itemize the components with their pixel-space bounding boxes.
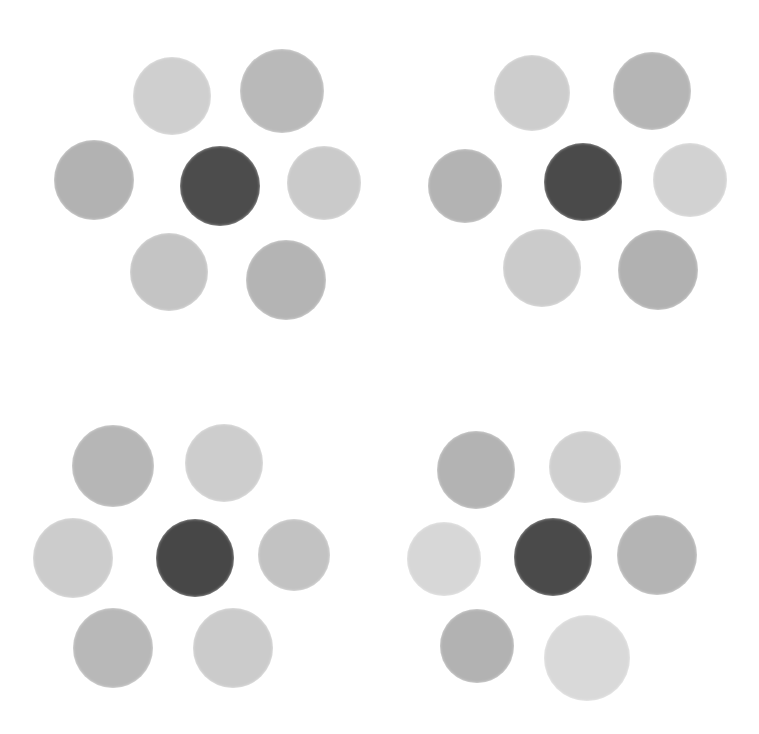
surround-disc bbox=[617, 515, 697, 595]
surround-disc bbox=[440, 609, 514, 683]
center-disc bbox=[514, 518, 592, 596]
surround-disc bbox=[437, 431, 515, 509]
surround-disc bbox=[549, 431, 621, 503]
surround-disc bbox=[407, 522, 481, 596]
surround-disc bbox=[544, 615, 630, 701]
disc-group-bottom-right bbox=[0, 0, 759, 734]
